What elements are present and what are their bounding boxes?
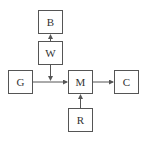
node-g-label: G <box>17 76 25 88</box>
node-w: W <box>38 41 63 65</box>
node-b-label: B <box>47 16 54 28</box>
node-c: C <box>114 70 139 94</box>
node-w-label: W <box>45 47 55 59</box>
node-r-label: R <box>77 114 84 126</box>
node-g: G <box>8 70 33 94</box>
node-m: M <box>68 70 93 94</box>
node-r: R <box>68 108 93 132</box>
node-m-label: M <box>76 76 86 88</box>
node-b: B <box>38 10 63 34</box>
node-c-label: C <box>123 76 130 88</box>
